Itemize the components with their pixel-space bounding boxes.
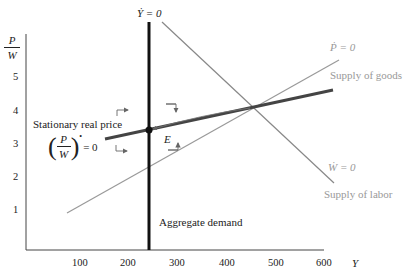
x-tick-200: 200 [120,258,136,269]
stationary-equation: ( P W ) • = 0 [48,133,98,160]
x-tick-100: 100 [72,258,88,269]
x-tick-400: 400 [219,258,235,269]
y-tick-3: 3 [13,139,18,150]
pdot-label: Ṗ = 0 [330,42,355,53]
aggregate-demand-label: Aggregate demand [159,217,242,228]
equilibrium-label: E [164,134,171,145]
supply-of-labor-label: Supply of labor [324,189,392,200]
y-tick-1: 1 [13,205,18,216]
equilibrium-point [146,127,153,134]
wdot-label: Ẇ = 0 [328,162,356,173]
y-label-denominator: W [4,49,20,61]
supply-of-goods-line [67,60,339,213]
ydot-label: Ẏ = 0 [137,8,162,19]
y-tick-5: 5 [13,72,18,83]
x-axis-label: Y [352,258,358,269]
stationary-real-price-line [105,90,333,139]
x-tick-500: 500 [268,258,284,269]
y-label-numerator: P [4,34,20,46]
supply-of-labor-line [162,22,334,183]
x-tick-600: 600 [316,258,332,269]
y-axis-label: P W [4,34,20,61]
x-tick-300: 300 [169,258,185,269]
stationary-real-price-label: Stationary real price [33,119,122,130]
y-tick-2: 2 [13,172,18,183]
supply-of-goods-label: Supply of goods [330,70,402,81]
y-tick-4: 4 [13,106,18,117]
